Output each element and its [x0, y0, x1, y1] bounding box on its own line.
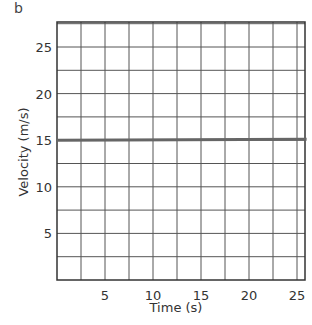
x-axis-label: Time (s)	[149, 300, 203, 315]
y-tick-label: 5	[44, 226, 52, 241]
y-axis-label: Velocity (m/s)	[16, 107, 31, 196]
x-tick-label: 5	[101, 288, 109, 303]
plot-border	[57, 22, 305, 280]
data-line-velocity	[57, 139, 307, 140]
y-tick-label: 20	[35, 87, 52, 102]
data-series	[57, 139, 307, 140]
grid-lines	[57, 22, 305, 280]
y-tick-label: 10	[35, 180, 52, 195]
x-tick-label: 20	[241, 288, 258, 303]
x-axis-ticks: 510152025	[101, 288, 305, 303]
x-tick-label: 25	[289, 288, 306, 303]
y-tick-label: 25	[35, 40, 52, 55]
plot-frame	[57, 22, 305, 280]
velocity-time-chart: 510152025 510152025 Time (s) Velocity (m…	[0, 0, 312, 325]
y-axis-ticks: 510152025	[35, 40, 52, 241]
y-tick-label: 15	[35, 133, 52, 148]
